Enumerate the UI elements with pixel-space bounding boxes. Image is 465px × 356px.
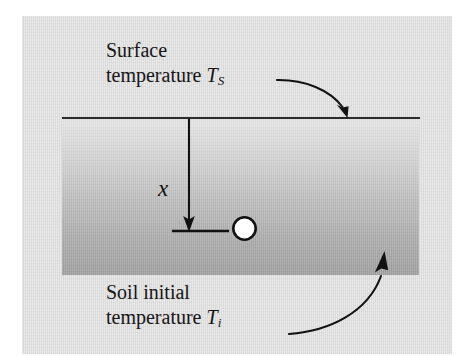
figure-canvas: Surface temperature TS Soil initial temp…: [0, 0, 465, 356]
soil-temperature-label-line2: temperature Ti: [106, 305, 221, 335]
surface-temperature-subscript: S: [218, 73, 225, 88]
surface-temperature-label-line1: Surface: [106, 38, 224, 63]
surface-temperature-word: temperature: [106, 64, 202, 86]
soil-temperature-symbol: T: [207, 306, 218, 328]
depth-symbol-x: x: [158, 176, 168, 202]
soil-temperature-label: Soil initial temperature Ti: [106, 280, 221, 335]
soil-region: [62, 120, 419, 275]
soil-temperature-word: temperature: [106, 306, 202, 328]
surface-temperature-label-line2: temperature TS: [106, 63, 224, 93]
soil-temperature-subscript: i: [218, 315, 222, 330]
surface-temperature-symbol: T: [207, 64, 218, 86]
soil-texture-overlay: [62, 120, 419, 275]
surface-temperature-label: Surface temperature TS: [106, 38, 224, 93]
soil-temperature-label-line1: Soil initial: [106, 280, 221, 305]
ground-surface-line: [62, 117, 420, 119]
